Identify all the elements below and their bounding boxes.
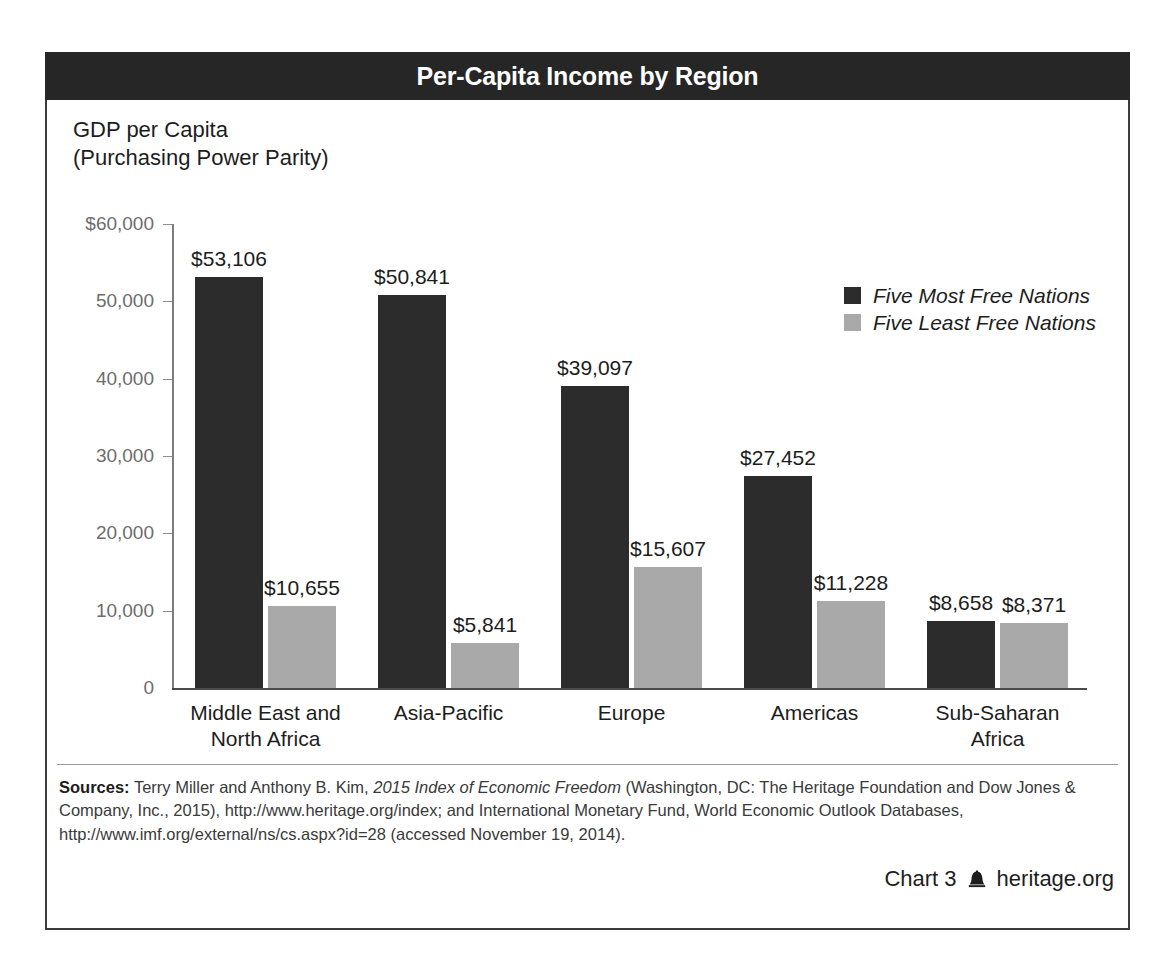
sources-text-part-1: Terry Miller and Anthony B. Kim,	[130, 778, 374, 796]
y-axis-tick-label: 0	[54, 677, 154, 699]
x-axis-category-line: Asia-Pacific	[394, 700, 504, 726]
sources-note: Sources: Terry Miller and Anthony B. Kim…	[59, 776, 1118, 846]
sources-label: Sources:	[59, 778, 130, 796]
legend-label-least-free: Five Least Free Nations	[873, 311, 1096, 335]
y-axis-tick-mark	[163, 301, 172, 302]
x-axis-category-line: Americas	[771, 700, 859, 726]
bar-value-label: $27,452	[740, 446, 816, 470]
y-axis-tick-label: 50,000	[54, 290, 154, 312]
chart-legend: Five Most Free Nations Five Least Free N…	[844, 282, 1096, 336]
bar-most-free	[744, 476, 812, 688]
chart-figure: Per-Capita Income by Region GDP per Capi…	[45, 52, 1130, 930]
footer-divider	[57, 764, 1118, 765]
liberty-bell-icon	[966, 868, 988, 890]
y-axis-tick-mark	[163, 224, 172, 225]
legend-item-least-free: Five Least Free Nations	[844, 309, 1096, 336]
y-axis-tick-mark	[163, 379, 172, 380]
plot-area: 010,00020,00030,00040,00050,000$60,000$5…	[47, 54, 1132, 784]
bar-least-free	[268, 606, 336, 688]
bar-most-free	[378, 295, 446, 688]
x-axis-category-line: Middle East and	[190, 700, 341, 726]
bar-value-label: $8,371	[1002, 593, 1066, 617]
bar-least-free	[817, 601, 885, 688]
x-axis-category-label: Asia-Pacific	[394, 700, 504, 726]
y-axis-tick-label: $60,000	[54, 213, 154, 235]
x-axis-line	[172, 688, 1087, 690]
bar-value-label: $10,655	[264, 576, 340, 600]
bar-least-free	[1000, 623, 1068, 688]
legend-swatch-least-free	[844, 314, 861, 331]
x-axis-category-label: Middle East andNorth Africa	[190, 700, 341, 751]
x-axis-category-line: Africa	[936, 726, 1060, 752]
legend-item-most-free: Five Most Free Nations	[844, 282, 1096, 309]
sources-italic-title: 2015 Index of Economic Freedom	[373, 778, 621, 796]
legend-label-most-free: Five Most Free Nations	[873, 284, 1090, 308]
y-axis-tick-label: 20,000	[54, 522, 154, 544]
x-axis-category-label: Americas	[771, 700, 859, 726]
y-axis-tick-label: 40,000	[54, 368, 154, 390]
site-url: heritage.org	[997, 866, 1114, 892]
bar-value-label: $8,658	[929, 591, 993, 615]
x-axis-category-line: North Africa	[190, 726, 341, 752]
x-axis-category-label: Sub-SaharanAfrica	[936, 700, 1060, 751]
x-axis-category-line: Sub-Saharan	[936, 700, 1060, 726]
bar-value-label: $15,607	[630, 537, 706, 561]
bar-least-free	[451, 643, 519, 688]
bar-most-free	[561, 386, 629, 688]
bar-least-free	[634, 567, 702, 688]
y-axis-tick-mark	[163, 611, 172, 612]
bar-most-free	[195, 277, 263, 688]
y-axis-tick-mark	[163, 533, 172, 534]
chart-number: Chart 3	[884, 866, 956, 892]
y-axis-tick-mark	[163, 456, 172, 457]
bar-value-label: $50,841	[374, 265, 450, 289]
bar-value-label: $39,097	[557, 356, 633, 380]
bar-value-label: $53,106	[191, 247, 267, 271]
x-axis-category-line: Europe	[598, 700, 666, 726]
y-axis-line	[172, 224, 174, 688]
bar-value-label: $5,841	[453, 613, 517, 637]
bar-value-label: $11,228	[814, 571, 888, 595]
y-axis-tick-label: 30,000	[54, 445, 154, 467]
footer-credit: Chart 3 heritage.org	[884, 866, 1114, 892]
x-axis-category-label: Europe	[598, 700, 666, 726]
bar-most-free	[927, 621, 995, 688]
legend-swatch-most-free	[844, 287, 861, 304]
y-axis-tick-label: 10,000	[54, 600, 154, 622]
